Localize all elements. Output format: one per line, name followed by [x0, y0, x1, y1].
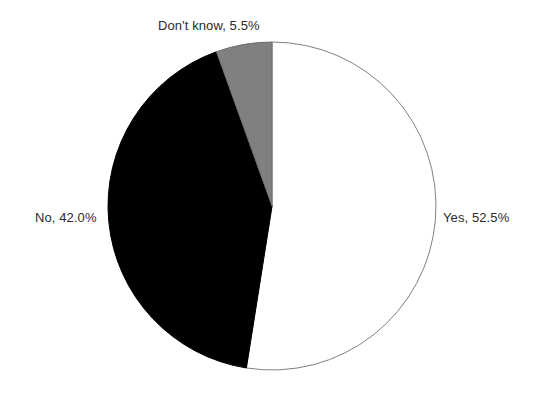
pie-label-yes: Yes, 52.5% [443, 210, 509, 226]
pie-label-dontknow: Don't know, 5.5% [158, 18, 260, 34]
pie-chart-canvas [0, 0, 545, 395]
pie-slice-yes [246, 42, 436, 370]
pie-label-no: No, 42.0% [35, 210, 97, 226]
pie-slices [108, 42, 436, 370]
pie-chart: Don't know, 5.5% No, 42.0% Yes, 52.5% [0, 0, 545, 395]
